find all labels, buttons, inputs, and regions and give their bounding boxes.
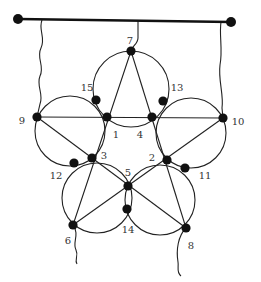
node-label-11: 11 xyxy=(199,170,212,181)
star-line-9-10 xyxy=(37,117,223,118)
right-string xyxy=(220,22,223,118)
node-label-7: 7 xyxy=(127,35,133,46)
node-1 xyxy=(102,112,111,121)
star-line-7-8 xyxy=(131,51,186,228)
node-label-4: 4 xyxy=(137,129,143,140)
node-label-6: 6 xyxy=(65,235,71,246)
node-label-1: 1 xyxy=(113,129,119,140)
node-label-2: 2 xyxy=(149,152,155,163)
pentagram-diagram: 123456789101112131415 xyxy=(0,0,261,282)
node-8 xyxy=(181,223,190,232)
node-11 xyxy=(180,163,189,172)
node-3 xyxy=(87,153,96,162)
star-line-7-6 xyxy=(73,51,131,225)
left-string xyxy=(37,20,43,117)
node-5 xyxy=(123,181,132,190)
node8-tail xyxy=(177,228,186,276)
node-label-5: 5 xyxy=(125,167,131,178)
node-9 xyxy=(32,112,41,121)
node-2 xyxy=(162,155,171,164)
nodes-layer xyxy=(32,46,227,232)
node-label-10: 10 xyxy=(232,116,245,127)
node6-tail xyxy=(73,225,77,264)
node-label-15: 15 xyxy=(81,82,94,93)
labels-layer: 123456789101112131415 xyxy=(19,35,245,251)
node-14 xyxy=(122,204,131,213)
node-label-12: 12 xyxy=(50,170,63,181)
node-15 xyxy=(91,95,100,104)
node-label-13: 13 xyxy=(171,82,184,93)
node-13 xyxy=(158,96,167,105)
bar-left-dot xyxy=(13,14,23,24)
top-bar xyxy=(18,19,231,22)
bar-right-dot xyxy=(226,17,236,27)
node-4 xyxy=(147,112,156,121)
node-label-9: 9 xyxy=(19,115,25,126)
node-label-14: 14 xyxy=(122,224,135,235)
diagram-canvas: 123456789101112131415 xyxy=(0,0,261,282)
node-6 xyxy=(68,220,77,229)
node-12 xyxy=(69,158,78,167)
node-label-3: 3 xyxy=(101,150,107,161)
node-label-8: 8 xyxy=(188,240,194,251)
node-7 xyxy=(126,46,135,55)
node-10 xyxy=(218,113,227,122)
